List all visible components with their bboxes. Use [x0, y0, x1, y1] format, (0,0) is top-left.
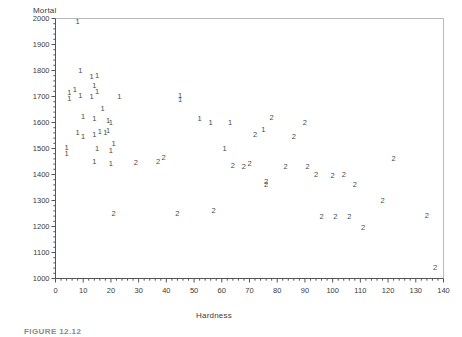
x-tick-label: 140 — [433, 286, 455, 295]
x-tick-label: 120 — [377, 286, 399, 295]
data-point-2: 2 — [433, 264, 437, 272]
data-point-1: 1 — [222, 145, 226, 153]
data-point-2: 2 — [112, 210, 116, 218]
data-point-1: 1 — [109, 160, 113, 168]
data-point-2: 2 — [264, 182, 268, 190]
data-point-1: 1 — [78, 92, 82, 100]
x-tick-label: 80 — [266, 286, 288, 295]
y-tick-label: 1600 — [24, 118, 50, 127]
data-point-2: 2 — [361, 224, 365, 232]
data-point-1: 1 — [64, 150, 68, 158]
x-tick-label: 100 — [322, 286, 344, 295]
data-point-1: 1 — [198, 116, 202, 124]
y-tick-label: 1400 — [24, 170, 50, 179]
data-point-2: 2 — [314, 171, 318, 179]
y-tick-label: 1800 — [24, 66, 50, 75]
x-axis-ticks — [56, 279, 444, 283]
y-tick-label: 1300 — [24, 196, 50, 205]
x-tick-label: 20 — [100, 286, 122, 295]
data-point-2: 2 — [253, 131, 257, 139]
y-tick-label: 1000 — [24, 274, 50, 283]
data-point-1: 1 — [92, 131, 96, 139]
figure-container: Mortal Hardness 100011001200130014001500… — [0, 0, 462, 337]
data-point-1: 1 — [92, 158, 96, 166]
data-point-2: 2 — [331, 172, 335, 180]
data-point-2: 2 — [156, 158, 160, 166]
data-point-1: 1 — [76, 129, 80, 137]
y-tick-label: 2000 — [24, 14, 50, 23]
data-point-1: 1 — [78, 67, 82, 75]
data-point-1: 1 — [261, 127, 265, 135]
data-point-2: 2 — [303, 119, 307, 127]
data-point-1: 1 — [117, 93, 121, 101]
data-point-1: 1 — [95, 88, 99, 96]
x-tick-label: 110 — [349, 286, 371, 295]
data-point-2: 2 — [319, 213, 323, 221]
data-point-1: 1 — [106, 127, 110, 135]
x-tick-label: 60 — [211, 286, 233, 295]
data-point-2: 2 — [306, 163, 310, 171]
figure-caption: FIGURE 12.12 — [24, 327, 81, 336]
data-point-1: 1 — [209, 119, 213, 127]
data-point-2: 2 — [270, 114, 274, 122]
data-point-1: 1 — [76, 18, 80, 26]
data-point-1: 1 — [89, 73, 93, 81]
y-tick-label: 1700 — [24, 92, 50, 101]
data-point-1: 1 — [101, 105, 105, 113]
x-tick-label: 10 — [72, 286, 94, 295]
data-point-2: 2 — [347, 213, 351, 221]
data-point-2: 2 — [333, 213, 337, 221]
data-point-2: 2 — [211, 208, 215, 216]
data-point-2: 2 — [292, 133, 296, 141]
data-point-1: 1 — [73, 87, 77, 95]
x-tick-label: 90 — [294, 286, 316, 295]
data-point-2: 2 — [231, 162, 235, 170]
x-tick-label: 130 — [405, 286, 427, 295]
data-point-2: 2 — [283, 163, 287, 171]
y-axis-ticks — [52, 19, 56, 279]
data-point-1: 1 — [95, 72, 99, 80]
y-tick-label: 1200 — [24, 222, 50, 231]
data-point-1: 1 — [95, 145, 99, 153]
data-point-2: 2 — [342, 171, 346, 179]
x-axis-title: Hardness — [196, 311, 232, 320]
data-point-1: 1 — [178, 96, 182, 104]
data-point-1: 1 — [89, 93, 93, 101]
data-point-2: 2 — [425, 212, 429, 220]
data-point-1: 1 — [67, 95, 71, 103]
data-point-2: 2 — [392, 156, 396, 164]
x-tick-label: 0 — [45, 286, 67, 295]
x-tick-label: 70 — [239, 286, 261, 295]
data-point-2: 2 — [380, 197, 384, 205]
data-point-1: 1 — [98, 129, 102, 137]
data-point-2: 2 — [175, 210, 179, 218]
x-tick-label: 40 — [155, 286, 177, 295]
data-point-2: 2 — [161, 155, 165, 163]
data-point-1: 1 — [112, 141, 116, 149]
x-tick-label: 50 — [183, 286, 205, 295]
data-point-2: 2 — [353, 181, 357, 189]
y-tick-label: 1100 — [24, 248, 50, 257]
data-point-1: 1 — [92, 115, 96, 123]
data-point-1: 1 — [228, 119, 232, 127]
x-tick-label: 30 — [128, 286, 150, 295]
data-point-2: 2 — [242, 163, 246, 171]
y-tick-label: 1900 — [24, 40, 50, 49]
data-point-2: 2 — [134, 160, 138, 168]
data-point-1: 1 — [81, 133, 85, 141]
data-point-2: 2 — [247, 160, 251, 168]
y-tick-label: 1500 — [24, 144, 50, 153]
data-point-1: 1 — [81, 113, 85, 121]
